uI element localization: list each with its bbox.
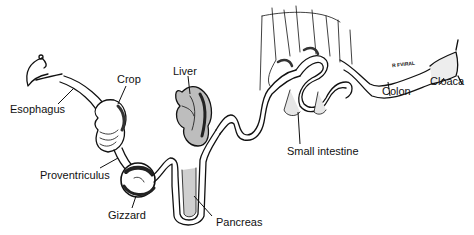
label-pancreas: Pancreas <box>216 217 262 228</box>
crop-shape <box>95 100 126 152</box>
mesentery-shape <box>260 6 352 90</box>
label-liver: Liver <box>173 66 197 77</box>
leader-crop <box>118 86 126 104</box>
small-intestine-shape <box>216 56 352 141</box>
duodenal-loop-shape <box>152 130 220 225</box>
label-gizzard: Gizzard <box>108 210 146 221</box>
leader-proventriculus <box>100 158 118 168</box>
label-small-intestine: Small intestine <box>287 146 359 157</box>
leader-esophagus <box>58 88 74 104</box>
label-proventriculus: Proventriculus <box>40 170 110 181</box>
digestive-system-diagram: Esophagus Crop Liver Proventriculus Gizz… <box>0 0 474 235</box>
beak-icon <box>27 55 62 86</box>
gizzard-shape <box>121 163 155 197</box>
leader-gizzard <box>132 196 136 208</box>
leader-small-intestine <box>298 112 300 144</box>
label-crop: Crop <box>117 74 141 85</box>
liver-shape <box>176 87 212 146</box>
label-esophagus: Esophagus <box>10 104 65 115</box>
label-cloaca: Cloaca <box>430 76 464 87</box>
diagram-artwork <box>0 0 474 235</box>
label-colon: Colon <box>382 86 411 97</box>
leader-pancreas <box>194 196 212 216</box>
